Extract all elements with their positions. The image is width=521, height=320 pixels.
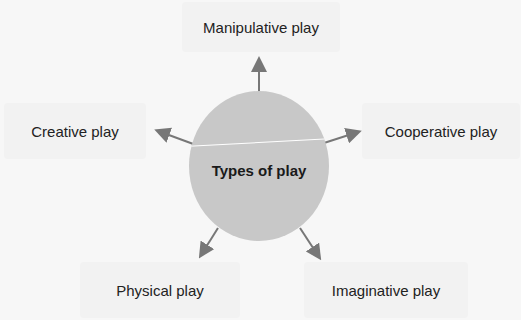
arrow-to-creative [158,131,196,145]
arrow-to-physical [201,228,218,255]
center-circle: Types of play [189,91,329,241]
node-imaginative-play: Imaginative play [304,262,468,318]
node-label: Physical play [116,282,204,299]
node-creative-play: Creative play [4,103,146,159]
arrow-to-imaginative [300,228,319,257]
arrow-to-cooperative [324,132,358,143]
node-physical-play: Physical play [80,262,240,318]
node-label: Imaginative play [332,282,440,299]
node-manipulative-play: Manipulative play [182,2,340,52]
node-label: Manipulative play [203,19,319,36]
center-label: Types of play [212,162,307,179]
node-cooperative-play: Cooperative play [362,103,520,159]
node-label: Cooperative play [385,123,498,140]
circle-divider-line [189,138,329,146]
node-label: Creative play [31,123,119,140]
